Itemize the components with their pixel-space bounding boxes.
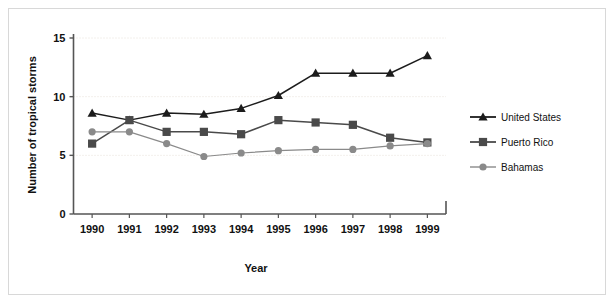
x-tick-label: 1991 [117,223,141,235]
data-series [88,51,432,160]
x-tick-label: 1996 [303,223,327,235]
x-tick-label: 1999 [415,223,439,235]
x-tick-label: 1992 [154,223,178,235]
x-tick-label: 1995 [266,223,290,235]
series-line [92,132,427,157]
data-point [89,128,96,135]
line-chart: 051015 199019911992199319941995199619971… [0,0,614,303]
legend-marker-circle [479,163,486,170]
data-point [163,140,170,147]
legend-item-puerto-rico[interactable]: Puerto Rico [470,137,554,148]
data-point [386,134,394,142]
chart-figure: 051015 199019911992199319941995199619971… [0,0,614,303]
data-point [125,116,133,124]
legend-label: United States [501,112,561,123]
legend-marker-square [479,138,487,146]
legend-item-bahamas[interactable]: Bahamas [470,162,543,173]
y-axis-title: Number of tropical storms [26,56,38,194]
y-tick-labels: 051015 [53,32,65,220]
data-point [424,140,431,147]
series-line [92,56,427,121]
legend-label: Bahamas [501,162,543,173]
chart-legend: United StatesPuerto RicoBahamas [470,112,561,173]
x-tick-label: 1997 [341,223,365,235]
x-tick-labels: 1990199119921993199419951996199719981999 [80,223,440,235]
x-tick-label: 1990 [80,223,104,235]
x-axis-title: Year [244,262,268,274]
data-point [312,118,320,126]
legend-item-united-states[interactable]: United States [470,112,561,123]
data-point [200,128,208,136]
data-point [274,91,283,99]
x-tick-label: 1994 [229,223,254,235]
y-tick-label: 15 [53,32,65,44]
y-tick-label: 10 [53,91,65,103]
tick-marks [70,38,428,218]
data-point [163,128,171,136]
data-point [88,108,97,116]
data-point [200,153,207,160]
data-point [238,149,245,156]
data-point [237,130,245,138]
data-point [387,142,394,149]
data-point [349,121,357,129]
x-tick-label: 1998 [378,223,402,235]
series-puerto-rico [88,116,431,148]
legend-label: Puerto Rico [501,137,554,148]
series-united-states [88,51,432,124]
y-tick-label: 5 [59,149,65,161]
plot-wrapper: 051015 199019911992199319941995199619971… [0,0,614,303]
data-point [126,128,133,135]
data-point [275,147,282,154]
y-tick-label: 0 [59,208,65,220]
x-tick-label: 1993 [192,223,216,235]
data-point [88,140,96,148]
data-point [349,146,356,153]
data-point [312,146,319,153]
data-point [274,116,282,124]
series-line [92,120,427,143]
data-point [423,51,432,59]
